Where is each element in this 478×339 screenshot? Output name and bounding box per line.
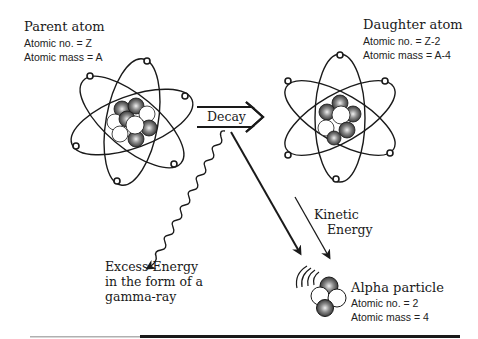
daughter-atomic-mass: Atomic mass = A-4 [363, 50, 451, 61]
daughter-atomic-number: Atomic no. = Z-2 [363, 36, 440, 47]
alpha-decay-diagram: Parent atom Atomic no. = Z Atomic mass =… [0, 0, 478, 339]
daughter-atom-graphic [274, 52, 405, 182]
alpha-particle-graphic [311, 277, 346, 317]
parent-atom-title: Parent atom [24, 20, 105, 33]
gamma-ray-wave [148, 131, 225, 268]
gamma-ray-line-1: Excess Energy [105, 259, 198, 274]
alpha-atomic-mass: Atomic mass = 4 [351, 312, 429, 323]
parent-nucleus [107, 98, 157, 147]
parent-atom-graphic [63, 54, 201, 189]
motion-lines [296, 266, 319, 288]
daughter-atom-title: Daughter atom [363, 18, 463, 31]
bottom-rule [140, 335, 460, 338]
alpha-particle-title: Alpha particle [351, 281, 444, 294]
alpha-trajectory-arrow [231, 132, 300, 253]
kinetic-energy-arrow [295, 197, 329, 257]
gamma-ray-line-3: gamma-ray [105, 289, 176, 304]
parent-atomic-mass: Atomic mass = A [24, 52, 102, 63]
alpha-atomic-number: Atomic no. = 2 [351, 298, 418, 309]
decay-label: Decay [207, 111, 246, 124]
parent-atomic-number: Atomic no. = Z [24, 38, 92, 49]
kinetic-energy-line-1: Kinetic [314, 207, 359, 222]
gamma-ray-line-2: in the form of a [105, 274, 203, 289]
kinetic-energy-line-2: Energy [327, 222, 373, 237]
